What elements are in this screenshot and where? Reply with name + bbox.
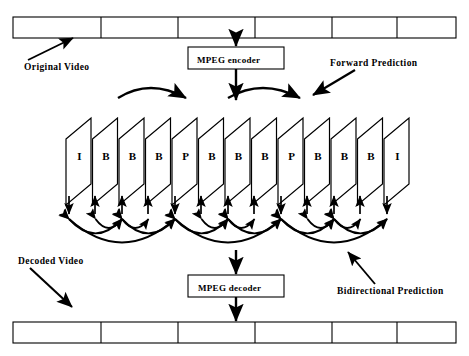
frame-label-3: B	[129, 150, 137, 162]
mpeg-encoder-label: MPEG encoder	[197, 55, 260, 65]
original-video-label: Original Video	[24, 62, 90, 72]
frame-label-7: B	[235, 150, 243, 162]
bidirectional-prediction-label: Bidirectional Prediction	[337, 286, 444, 296]
bidi-arc-g2-5	[228, 219, 255, 228]
decoded-video-strip	[13, 322, 456, 343]
frame-label-6: B	[208, 150, 216, 162]
frame-label-12: B	[367, 150, 375, 162]
mpeg-decoder-label: MPEG decoder	[198, 283, 261, 293]
bidirectional-prediction-pointer-arrow	[348, 252, 375, 284]
frame-label-2: B	[102, 150, 110, 162]
forward-arc-2	[228, 88, 300, 98]
frame-label-4: B	[155, 150, 163, 162]
forward-prediction-pointer-arrow	[313, 70, 355, 95]
original-video-pointer-arrow	[28, 38, 73, 60]
mpeg-gop-diagram: IBBBPBBBPBBBI Original Video Forward Pre…	[0, 0, 469, 356]
bidi-arc-g1-4	[96, 219, 123, 228]
frame-label-11: B	[341, 150, 349, 162]
bidi-arc-g3-5	[334, 219, 361, 228]
original-video-strip	[13, 17, 456, 38]
decoded-video-pointer-arrow	[30, 268, 72, 307]
frame-label-13: I	[395, 150, 399, 162]
frame-label-8: B	[261, 150, 269, 162]
frame-label-9: P	[288, 150, 295, 162]
bidi-arc-g2-4	[202, 219, 229, 228]
frame-label-5: P	[182, 150, 189, 162]
bidirectional-prediction-arcs	[69, 219, 387, 242]
frame-label-1: I	[77, 150, 81, 162]
decoded-video-label: Decoded Video	[18, 256, 84, 266]
bidi-arc-g1-5	[122, 219, 149, 228]
forward-arc-1	[118, 88, 186, 98]
bidi-arc-g3-4	[308, 219, 335, 228]
strip-outline	[13, 17, 456, 38]
forward-prediction-label: Forward Prediction	[330, 58, 418, 68]
diagram-canvas: IBBBPBBBPBBBI	[0, 0, 469, 356]
frame-label-10: B	[314, 150, 322, 162]
strip-outline	[13, 322, 456, 343]
forward-prediction-arcs	[118, 88, 300, 98]
